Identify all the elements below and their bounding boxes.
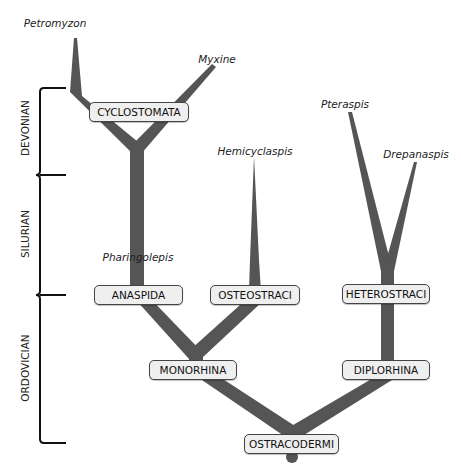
node-diplorhina: DIPLORHINA <box>342 360 430 380</box>
node-ostracodermi: OSTRACODERMI <box>244 434 339 454</box>
taxon-drepanaspis: Drepanaspis <box>383 148 449 160</box>
taxon-petromyzon: Petromyzon <box>24 17 87 29</box>
taxon-myxine: Myxine <box>198 53 236 65</box>
phylogenetic-tree: DEVONIAN SILURIAN ORDOVICIAN Petromyzon … <box>0 0 461 473</box>
taxon-hemicyclaspis: Hemicyclaspis <box>217 145 292 157</box>
period-label-devonian: DEVONIAN <box>19 100 31 156</box>
taxon-pharingolepis: Pharingolepis <box>103 251 174 263</box>
node-osteostraci: OSTEOSTRACI <box>210 285 300 305</box>
node-monorhina: MONORHINA <box>149 360 237 380</box>
node-cyclostomata: CYCLOSTOMATA <box>89 102 189 122</box>
period-label-silurian: SILURIAN <box>19 210 31 258</box>
node-anaspida: ANASPIDA <box>94 285 183 305</box>
tree-branches <box>0 0 461 473</box>
node-heterostraci: HETEROSTRACI <box>342 284 430 304</box>
taxon-pteraspis: Pteraspis <box>321 98 369 110</box>
period-label-ordovician: ORDOVICIAN <box>19 334 31 401</box>
period-bracket <box>36 88 66 443</box>
